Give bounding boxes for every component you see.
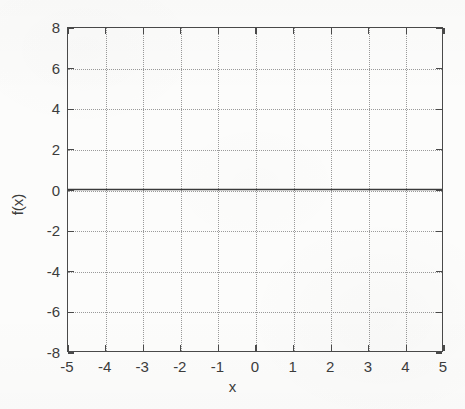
data-series-layer xyxy=(68,28,442,351)
y-tick-label: 6 xyxy=(28,59,60,76)
y-tick-label: 2 xyxy=(28,140,60,157)
x-tick-label: -1 xyxy=(211,358,224,375)
y-tick-label: -4 xyxy=(28,262,60,279)
y-tick-label: 0 xyxy=(28,181,60,198)
x-axis-label-text: x xyxy=(229,378,237,395)
tick-mark-y xyxy=(436,352,442,353)
x-axis-label: x xyxy=(0,378,465,395)
y-tick-label: 4 xyxy=(28,100,60,117)
x-tick-label: -3 xyxy=(136,358,149,375)
figure-plot-fx: -5-4-3-2-1012345 -8-6-4-202468 x f(x) xyxy=(0,0,465,409)
y-axis-label: f(x) xyxy=(6,0,30,409)
x-tick-label: 4 xyxy=(401,358,409,375)
x-tick-label: 5 xyxy=(439,358,447,375)
x-tick-label: 3 xyxy=(364,358,372,375)
tick-mark-x xyxy=(443,28,444,34)
y-tick-label: 8 xyxy=(28,19,60,36)
x-tick-label: -2 xyxy=(173,358,186,375)
tick-mark-y xyxy=(68,352,74,353)
x-tick-label: 2 xyxy=(326,358,334,375)
x-tick-label: 0 xyxy=(251,358,259,375)
tick-mark-x xyxy=(443,345,444,351)
x-tick-label: 1 xyxy=(288,358,296,375)
y-tick-label: -8 xyxy=(28,344,60,361)
x-tick-label: -4 xyxy=(98,358,111,375)
y-tick-label: -2 xyxy=(28,222,60,239)
plot-area xyxy=(67,27,443,352)
y-tick-label: -6 xyxy=(28,303,60,320)
x-tick-label: -5 xyxy=(60,358,73,375)
series-fx-line xyxy=(68,28,442,351)
y-axis-label-text: f(x) xyxy=(9,194,26,216)
